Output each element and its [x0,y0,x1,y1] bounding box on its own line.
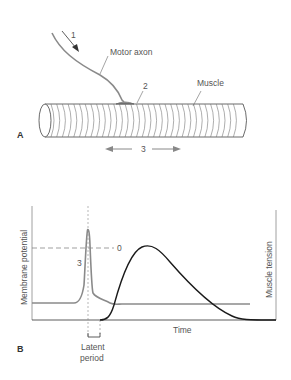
panel-b: Membrane potential Muscle tension Time 0… [17,206,276,363]
label-2-leader [137,91,143,103]
latent-bracket [88,333,100,337]
motor-axon-leader [100,56,108,74]
y-label-membrane-potential: Membrane potential [19,230,29,305]
diagram-canvas: 1 Motor axon 2 Muscle 3 A Membrane poten… [0,0,291,380]
membrane-potential-curve [32,230,250,305]
panel-letter-a: A [17,130,24,140]
label-period: period [80,353,104,363]
muscle-fiber [39,104,247,137]
muscle-tension-curve [100,246,276,320]
y-label-muscle-tension: Muscle tension [264,241,274,298]
panel-letter-b: B [17,344,24,354]
label-2: 2 [143,81,148,91]
label-latent: Latent [81,342,105,352]
label-3-top: 3 [141,144,146,154]
panel-a: 1 Motor axon 2 Muscle 3 A [17,30,247,154]
label-motor-axon: Motor axon [110,47,153,57]
label-3-graph: 3 [77,258,82,268]
x-label-time: Time [173,325,192,335]
motor-axon-fiber [52,33,124,102]
label-1: 1 [71,30,76,40]
label-muscle: Muscle [197,78,224,88]
label-zero: 0 [117,243,122,253]
